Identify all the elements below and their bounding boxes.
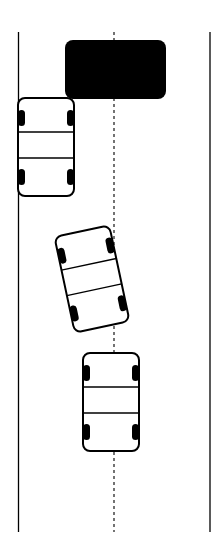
car-center-lane [83,353,139,451]
car-parked-left [18,98,74,196]
car-turning [54,225,129,333]
road-diagram [0,0,219,549]
obstacle-block [65,40,166,99]
